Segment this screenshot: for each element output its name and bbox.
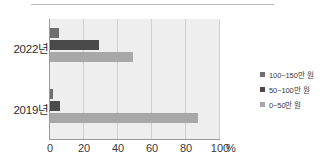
x-tick-80: 80: [180, 142, 192, 154]
legend-swatch-icon-100-150: [260, 72, 265, 77]
x-tick-20: 20: [78, 142, 90, 154]
legend-label-0-50: 0~50만 원: [269, 99, 301, 110]
chart-root: 2022년 2019년 0 20 40 60 80 100 % 100~150만…: [0, 0, 325, 163]
x-axis-line: [49, 139, 220, 140]
legend-swatch-icon-50-100: [260, 87, 265, 92]
legend-swatch-icon-0-50: [260, 102, 265, 107]
legend-label-100-150: 100~150만 원: [269, 69, 314, 80]
bar-2022-0-50: [50, 52, 133, 62]
bar-2019-0-50: [50, 113, 198, 123]
bar-2019-50-100: [50, 101, 60, 111]
y-axis-label-2019: 2019년: [13, 101, 49, 117]
x-axis-unit-label: %: [226, 142, 236, 154]
legend-item-0-50: 0~50만 원: [260, 99, 314, 110]
x-tick-0: 0: [47, 142, 53, 154]
x-tick-60: 60: [146, 142, 158, 154]
legend-label-50-100: 50~100만 원: [269, 84, 309, 95]
bar-2019-100-150: [50, 89, 53, 99]
top-divider: [31, 4, 274, 5]
chart-legend: 100~150만 원 50~100만 원 0~50만 원: [260, 69, 314, 114]
gridline-100: [219, 19, 220, 139]
bar-2022-50-100: [50, 40, 99, 50]
bar-2022-100-150: [50, 28, 59, 38]
y-axis-label-2022: 2022년: [13, 40, 49, 56]
legend-item-50-100: 50~100만 원: [260, 84, 314, 95]
legend-item-100-150: 100~150만 원: [260, 69, 314, 80]
x-tick-40: 40: [112, 142, 124, 154]
